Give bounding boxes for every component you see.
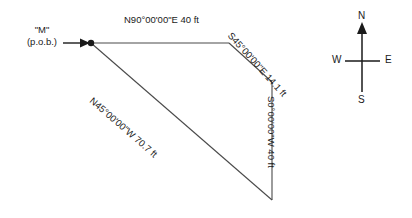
compass-label-south: S <box>358 94 365 105</box>
compass-label-north: N <box>358 10 365 21</box>
course-label-north: N90°00'00"E 40 ft <box>124 14 199 26</box>
survey-diagram-page: "M" (p.o.b.) N90°00'00"E 40 ft S45°00'00… <box>0 0 412 218</box>
pob-sublabel: (p.o.b.) <box>14 36 70 48</box>
compass-label-west: W <box>332 54 341 65</box>
point-of-beginning-label: "M" (p.o.b.) <box>14 24 70 48</box>
point-of-beginning-marker <box>88 40 94 46</box>
course-label-south: S0°00'00"W 40 ft <box>265 96 277 168</box>
compass-label-east: E <box>385 54 392 65</box>
compass-rose-icon <box>345 22 380 92</box>
pob-name: "M" <box>14 24 70 36</box>
